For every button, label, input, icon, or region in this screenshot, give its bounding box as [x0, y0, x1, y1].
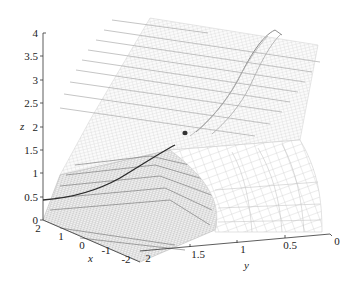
svg-text:0.5: 0.5	[24, 191, 38, 203]
data-marker	[182, 131, 187, 135]
z-tick-labels: 0 0.5 1 1.5 2 2.5 3 3.5 4	[24, 27, 38, 226]
svg-text:-2: -2	[121, 253, 130, 265]
surface-plot: 0 0.5 1 1.5 2 2.5 3 3.5 4 z 2 1 0 -1 -2 …	[0, 0, 358, 285]
svg-text:1: 1	[33, 167, 39, 179]
svg-text:-1: -1	[101, 244, 110, 256]
z-axis-label: z	[19, 120, 25, 132]
svg-text:1.5: 1.5	[24, 144, 38, 156]
svg-text:1: 1	[240, 243, 246, 255]
svg-text:3: 3	[33, 74, 39, 86]
svg-text:2: 2	[35, 222, 41, 234]
svg-text:1: 1	[58, 230, 64, 242]
svg-text:2: 2	[145, 252, 151, 264]
svg-text:2: 2	[33, 121, 39, 133]
svg-text:3.5: 3.5	[24, 50, 38, 62]
svg-text:0.5: 0.5	[283, 239, 297, 251]
z-axis	[40, 33, 46, 220]
x-axis-label: x	[87, 252, 93, 264]
svg-text:2.5: 2.5	[24, 97, 38, 109]
svg-text:4: 4	[33, 27, 39, 39]
svg-text:0: 0	[334, 235, 340, 247]
svg-text:1.5: 1.5	[191, 248, 205, 260]
svg-text:0: 0	[79, 239, 85, 251]
y-axis-label: y	[243, 259, 249, 271]
